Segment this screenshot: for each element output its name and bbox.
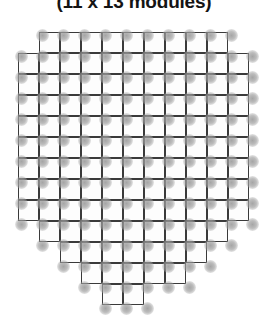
module-cell: [186, 53, 207, 74]
module-cell: [60, 137, 81, 158]
module-cell: [207, 221, 228, 242]
module-cell: [102, 74, 123, 95]
module-cell: [123, 263, 144, 284]
module-cell: [144, 116, 165, 137]
module-cell: [144, 179, 165, 200]
module-cell: [60, 32, 81, 53]
module-cell: [186, 221, 207, 242]
module-cell: [123, 242, 144, 263]
module-cell: [165, 179, 186, 200]
module-cell: [144, 200, 165, 221]
module-cell: [39, 158, 60, 179]
module-cell: [81, 200, 102, 221]
module-cell: [228, 116, 249, 137]
module-cell: [39, 200, 60, 221]
module-cell: [81, 95, 102, 116]
module-cell: [60, 200, 81, 221]
module-cell: [102, 158, 123, 179]
module-cell: [144, 242, 165, 263]
module-cell: [18, 137, 39, 158]
module-cell: [102, 221, 123, 242]
module-cell: [81, 32, 102, 53]
module-cell: [144, 53, 165, 74]
module-cell: [123, 32, 144, 53]
module-cell: [60, 221, 81, 242]
module-cell: [81, 116, 102, 137]
module-cell: [144, 263, 165, 284]
module-cell: [144, 95, 165, 116]
module-cell: [123, 158, 144, 179]
module-cell: [207, 200, 228, 221]
module-cell: [102, 284, 123, 305]
module-cell: [165, 221, 186, 242]
module-cell: [18, 116, 39, 137]
module-cell: [123, 137, 144, 158]
module-cell: [186, 116, 207, 137]
module-cell: [39, 32, 60, 53]
module-cell: [18, 53, 39, 74]
module-cell: [102, 95, 123, 116]
module-cell: [228, 95, 249, 116]
module-cell: [81, 263, 102, 284]
module-cell: [81, 242, 102, 263]
module-cell: [102, 53, 123, 74]
module-cell: [60, 53, 81, 74]
module-cell: [144, 137, 165, 158]
module-cell: [228, 74, 249, 95]
module-cell: [186, 137, 207, 158]
module-cell: [165, 116, 186, 137]
module-cell: [186, 200, 207, 221]
module-cell: [144, 32, 165, 53]
module-cell: [165, 158, 186, 179]
module-cell: [165, 263, 186, 284]
module-cell: [102, 263, 123, 284]
module-cell: [60, 179, 81, 200]
module-cell: [39, 221, 60, 242]
module-cell: [186, 95, 207, 116]
module-cell: [186, 32, 207, 53]
module-cell: [102, 200, 123, 221]
module-cell: [81, 179, 102, 200]
module-cell: [81, 158, 102, 179]
module-cell: [207, 32, 228, 53]
module-cell: [165, 32, 186, 53]
module-cell: [186, 158, 207, 179]
module-cell: [60, 95, 81, 116]
module-cell: [144, 158, 165, 179]
module-cell: [18, 95, 39, 116]
module-cell: [102, 242, 123, 263]
module-cell: [81, 137, 102, 158]
module-array-figure: (11 x 13 modules): [0, 0, 268, 329]
module-cell: [207, 158, 228, 179]
module-cell: [102, 32, 123, 53]
module-cell: [39, 179, 60, 200]
module-cell: [228, 158, 249, 179]
module-cell: [123, 53, 144, 74]
module-cell: [123, 74, 144, 95]
module-cell: [60, 158, 81, 179]
module-cell: [39, 74, 60, 95]
module-cell: [18, 74, 39, 95]
module-cell: [144, 74, 165, 95]
module-cell: [123, 179, 144, 200]
module-cell: [123, 116, 144, 137]
module-cell: [81, 74, 102, 95]
module-cell: [165, 200, 186, 221]
module-cell: [123, 95, 144, 116]
module-cell: [207, 137, 228, 158]
module-cell: [186, 74, 207, 95]
module-cell: [165, 95, 186, 116]
module-cell: [186, 242, 207, 263]
module-cell: [123, 200, 144, 221]
module-cell: [39, 116, 60, 137]
module-cell: [207, 95, 228, 116]
module-cell: [39, 95, 60, 116]
module-cell: [228, 200, 249, 221]
module-cell: [207, 53, 228, 74]
module-cell: [228, 137, 249, 158]
module-cell: [165, 53, 186, 74]
module-cell: [102, 116, 123, 137]
module-cell: [18, 200, 39, 221]
module-cell: [228, 179, 249, 200]
module-cell: [207, 179, 228, 200]
